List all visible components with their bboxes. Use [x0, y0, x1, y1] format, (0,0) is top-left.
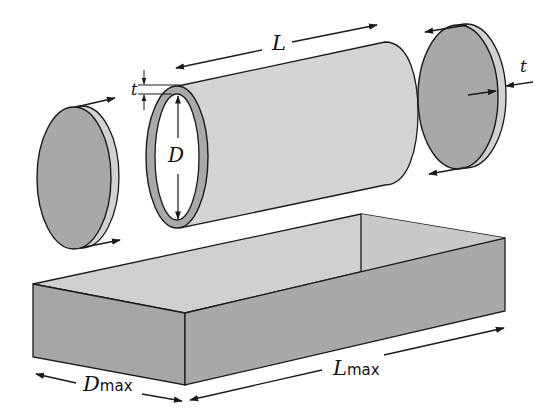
left-disc-top-arrow: [76, 98, 115, 107]
hollow-cylinder: [146, 42, 418, 228]
dmax-arrow-left: [36, 374, 76, 383]
right-disc-bottom-arrow: [429, 167, 468, 174]
thickness-label-disc: t: [520, 58, 527, 75]
diagram-canvas: L t D t Dmax Lmax: [0, 0, 558, 418]
right-end-disc: [418, 24, 506, 169]
length-arrow-right: [292, 25, 377, 42]
left-end-disc: [37, 106, 119, 249]
length-label: L: [272, 33, 286, 54]
open-box: [33, 214, 505, 385]
dmax-arrow-right: [142, 394, 182, 401]
dmax-subscript: max: [100, 377, 133, 395]
thickness-label-tube: t: [131, 82, 137, 98]
dmax-label: Dmax: [83, 374, 133, 395]
lmax-label: Lmax: [333, 358, 380, 379]
lmax-main: L: [333, 356, 347, 380]
cylinder-body: [178, 42, 418, 228]
length-arrow-left: [176, 50, 262, 68]
diameter-label: D: [168, 145, 184, 165]
lmax-subscript: max: [347, 361, 380, 379]
diagram-svg: [0, 0, 558, 418]
dmax-main: D: [83, 372, 100, 396]
right-thickness-arrow-outer: [506, 82, 533, 86]
